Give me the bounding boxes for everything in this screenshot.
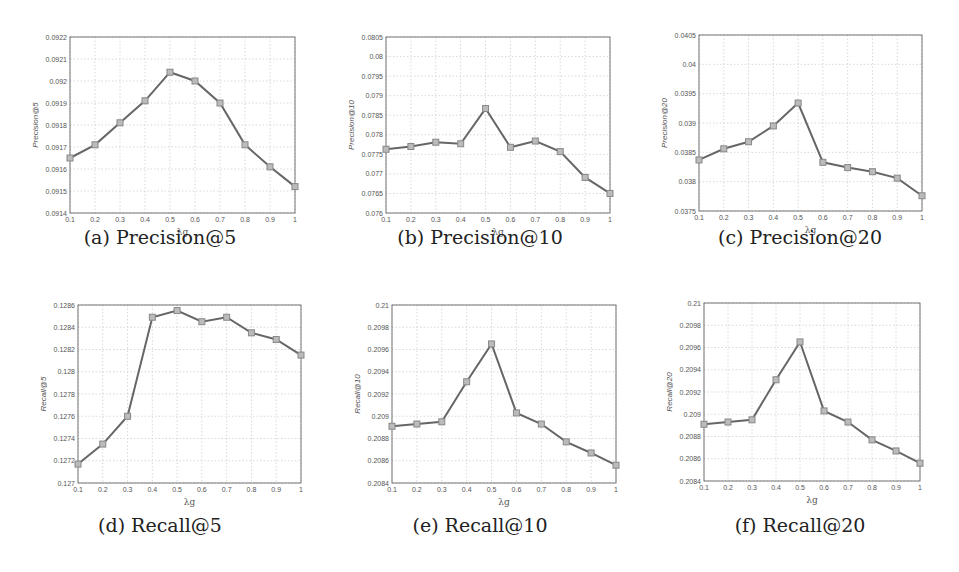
y-tick-label: 0.2092 xyxy=(368,391,390,398)
x-tick-label: 0.1 xyxy=(387,486,397,493)
x-tick-label: 0.6 xyxy=(819,484,829,491)
data-point-marker xyxy=(821,408,827,414)
data-point-marker xyxy=(820,159,826,165)
y-tick-label: 0.21 xyxy=(687,300,701,307)
x-tick-label: 0.9 xyxy=(271,486,281,493)
y-tick-label: 0.21 xyxy=(375,302,389,309)
x-tick-label: 0.2 xyxy=(719,214,729,221)
data-point-marker xyxy=(795,100,801,106)
x-tick-label: 0.7 xyxy=(536,486,546,493)
x-tick-label: 0.6 xyxy=(197,486,207,493)
data-point-marker xyxy=(701,421,707,427)
data-point-marker xyxy=(433,139,439,145)
y-tick-label: 0.08 xyxy=(369,53,383,60)
data-point-marker xyxy=(242,142,248,148)
data-point-marker xyxy=(192,78,198,84)
data-point-marker xyxy=(439,419,445,425)
data-point-marker xyxy=(458,141,464,147)
x-tick-label: 0.9 xyxy=(586,486,596,493)
x-tick-label: 0.7 xyxy=(215,216,225,223)
y-tick-label: 0.1272 xyxy=(54,457,76,464)
y-tick-label: 0.0914 xyxy=(46,210,68,217)
x-tick-label: 1 xyxy=(918,484,922,491)
y-tick-label: 0.2088 xyxy=(680,433,702,440)
x-tick-label: 0.8 xyxy=(240,216,250,223)
x-tick-label: 0.3 xyxy=(437,486,447,493)
y-tick-label: 0.1282 xyxy=(54,346,76,353)
x-tick-label: 0.6 xyxy=(190,216,200,223)
x-tick-label: 0.2 xyxy=(90,216,100,223)
x-tick-label: 0.1 xyxy=(73,486,83,493)
x-tick-label: 0.4 xyxy=(147,486,157,493)
data-point-marker xyxy=(557,149,563,155)
y-tick-label: 0.2086 xyxy=(680,455,702,462)
x-tick-label: 0.2 xyxy=(406,216,416,223)
y-tick-label: 0.2092 xyxy=(680,389,702,396)
x-tick-label: 0.7 xyxy=(843,484,853,491)
x-tick-label: 0.4 xyxy=(456,216,466,223)
y-axis-label: Recall@5 xyxy=(39,376,48,411)
x-tick-label: 0.2 xyxy=(98,486,108,493)
data-point-marker xyxy=(869,169,875,175)
x-tick-label: 0.1 xyxy=(694,214,704,221)
y-tick-label: 0.0917 xyxy=(46,144,68,151)
y-axis-label: Precision@10 xyxy=(347,99,356,149)
x-tick-label: 0.3 xyxy=(123,486,133,493)
x-tick-label: 0.8 xyxy=(867,484,877,491)
data-point-marker xyxy=(100,441,106,447)
data-point-marker xyxy=(174,308,180,314)
chart-recall-at-20: 0.20840.20860.20880.2090.20920.20940.209… xyxy=(640,290,959,572)
y-tick-label: 0.0922 xyxy=(46,34,68,41)
data-point-marker xyxy=(464,379,470,385)
x-tick-label: 1 xyxy=(608,216,612,223)
data-point-marker xyxy=(224,314,230,320)
data-point-marker xyxy=(613,462,619,468)
y-tick-label: 0.0785 xyxy=(362,112,384,119)
x-tick-label: 0.8 xyxy=(247,486,257,493)
data-point-marker xyxy=(893,448,899,454)
y-tick-label: 0.2098 xyxy=(368,324,390,331)
chart-recall-at-5: 0.1270.12720.12740.12760.12780.1280.1282… xyxy=(0,290,320,572)
plot-area xyxy=(386,37,610,213)
y-tick-label: 0.209 xyxy=(683,411,701,418)
x-tick-label: 0.9 xyxy=(580,216,590,223)
data-point-marker xyxy=(292,184,298,190)
y-tick-label: 0.0385 xyxy=(675,149,697,156)
data-point-marker xyxy=(919,193,925,199)
y-tick-label: 0.1278 xyxy=(54,391,76,398)
chart-recall-at-10: 0.20840.20860.20880.2090.20920.20940.209… xyxy=(320,290,640,572)
data-point-marker xyxy=(267,164,273,170)
y-tick-label: 0.2094 xyxy=(680,366,702,373)
data-point-marker xyxy=(513,410,519,416)
x-tick-label: 0.5 xyxy=(481,216,491,223)
y-tick-label: 0.0915 xyxy=(46,188,68,195)
data-point-marker xyxy=(917,460,923,466)
y-axis-label: Precision@5 xyxy=(31,102,40,148)
data-point-marker xyxy=(414,421,420,427)
data-point-marker xyxy=(75,461,81,467)
x-tick-label: 0.9 xyxy=(892,214,902,221)
data-point-marker xyxy=(117,120,123,126)
data-point-marker xyxy=(489,341,495,347)
y-tick-label: 0.0916 xyxy=(46,166,68,173)
data-point-marker xyxy=(746,139,752,145)
data-point-marker xyxy=(67,155,73,161)
data-point-marker xyxy=(273,336,279,342)
data-point-marker xyxy=(125,413,131,419)
y-tick-label: 0.128 xyxy=(57,368,75,375)
data-point-marker xyxy=(894,175,900,181)
y-tick-label: 0.0918 xyxy=(46,122,68,129)
chart-precision-at-20: 0.03750.0380.03850.0390.03950.040.04050.… xyxy=(640,0,959,286)
x-tick-label: 0.8 xyxy=(868,214,878,221)
x-tick-label: 1 xyxy=(920,214,924,221)
data-point-marker xyxy=(217,100,223,106)
x-tick-label: 0.7 xyxy=(843,214,853,221)
y-tick-label: 0.1276 xyxy=(54,413,76,420)
data-point-marker xyxy=(582,174,588,180)
y-tick-label: 0.079 xyxy=(365,92,383,99)
data-point-marker xyxy=(588,450,594,456)
data-point-marker xyxy=(721,146,727,152)
chart-precision-at-5: 0.09140.09150.09160.09170.09180.09190.09… xyxy=(0,0,320,286)
x-tick-label: 0.3 xyxy=(744,214,754,221)
y-tick-label: 0.0375 xyxy=(675,208,697,215)
